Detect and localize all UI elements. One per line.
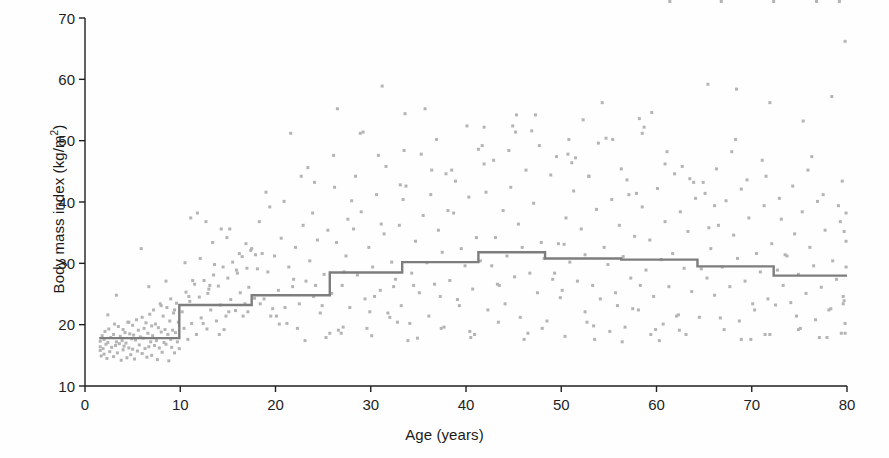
scatter-point — [326, 229, 329, 232]
scatter-point — [226, 277, 229, 280]
scatter-point — [582, 118, 585, 121]
scatter-point — [205, 327, 208, 330]
scatter-point — [314, 284, 317, 287]
scatter-point — [515, 113, 518, 116]
scatter-point — [435, 138, 438, 141]
scatter-point — [424, 107, 427, 110]
scatter-point — [736, 257, 739, 260]
scatter-point — [641, 132, 644, 135]
scatter-point — [452, 212, 455, 215]
scatter-point — [202, 322, 205, 325]
scatter-point — [720, 0, 723, 3]
scatter-point — [392, 285, 395, 288]
scatter-point — [844, 40, 847, 43]
scatter-point — [340, 332, 343, 335]
scatter-point — [774, 304, 777, 307]
scatter-point — [658, 339, 661, 342]
scatter-point — [456, 298, 459, 301]
scatter-point — [168, 319, 171, 322]
scatter-point — [441, 251, 444, 254]
scatter-point — [147, 345, 150, 348]
scatter-point — [549, 174, 552, 177]
scatter-point — [591, 284, 594, 287]
scatter-point — [239, 291, 242, 294]
scatter-point — [104, 330, 107, 333]
scatter-point — [106, 341, 109, 344]
scatter-point — [356, 273, 359, 276]
scatter-point — [324, 336, 327, 339]
x-axis-tick-label: 40 — [458, 396, 475, 413]
scatter-point — [686, 230, 689, 233]
scatter-point — [323, 273, 326, 276]
scatter-point — [102, 347, 105, 350]
scatter-point — [514, 131, 517, 134]
scatter-point — [404, 112, 407, 115]
scatter-point — [145, 356, 148, 359]
scatter-point — [574, 156, 577, 159]
scatter-point — [223, 328, 226, 331]
scatter-point — [277, 289, 280, 292]
y-axis-tick-label: 70 — [58, 10, 75, 27]
scatter-point — [584, 253, 587, 256]
scatter-point — [381, 85, 384, 88]
scatter-point — [490, 264, 493, 267]
scatter-point — [446, 209, 449, 212]
scatter-point — [118, 342, 121, 345]
scatter-point — [616, 304, 619, 307]
scatter-point — [224, 315, 227, 318]
scatter-point — [341, 284, 344, 287]
scatter-point — [528, 272, 531, 275]
scatter-point — [195, 333, 198, 336]
scatter-point — [101, 334, 104, 337]
scatter-point — [540, 241, 543, 244]
scatter-point — [443, 326, 446, 329]
scatter-point — [304, 339, 307, 342]
scatter-point — [127, 346, 130, 349]
scatter-point — [220, 227, 223, 230]
scatter-point — [627, 193, 630, 196]
scatter-point — [129, 353, 132, 356]
scatter-point — [481, 144, 484, 147]
scatter-point — [525, 169, 528, 172]
scatter-point — [186, 338, 189, 341]
scatter-point — [171, 329, 174, 332]
x-axis-tick-label: 30 — [362, 396, 379, 413]
scatter-point — [190, 322, 193, 325]
scatter-point — [414, 240, 417, 243]
scatter-point — [639, 284, 642, 287]
scatter-point — [189, 216, 192, 219]
scatter-point — [269, 315, 272, 318]
scatter-point — [806, 169, 809, 172]
scatter-point — [633, 235, 636, 238]
scatter-point — [690, 290, 693, 293]
scatter-point — [648, 239, 651, 242]
scatter-point — [477, 148, 480, 151]
scatter-point — [187, 295, 190, 298]
scatter-point — [273, 254, 276, 257]
scatter-point — [764, 333, 767, 336]
scatter-point — [131, 348, 134, 351]
scatter-point — [103, 353, 106, 356]
scatter-point — [245, 267, 248, 270]
scatter-point — [410, 272, 413, 275]
scatter-point — [603, 246, 606, 249]
scatter-point — [246, 310, 249, 313]
scatter-point — [178, 347, 181, 350]
scatter-point — [620, 167, 623, 170]
scatter-point — [336, 107, 339, 110]
y-axis-title-main: Body mass index (kg/m — [50, 135, 67, 293]
scatter-point — [333, 186, 336, 189]
scatter-point — [694, 197, 697, 200]
scatter-point — [541, 327, 544, 330]
scatter-point — [464, 264, 467, 267]
scatter-point — [751, 302, 754, 305]
scatter-point — [744, 280, 747, 283]
scatter-point — [204, 220, 207, 223]
scatter-point — [572, 189, 575, 192]
x-axis-title: Age (years) — [0, 426, 889, 443]
scatter-point — [311, 212, 314, 215]
scatter-point — [167, 359, 170, 362]
scatter-point — [308, 259, 311, 262]
scatter-point — [469, 336, 472, 339]
scatter-point — [335, 241, 338, 244]
